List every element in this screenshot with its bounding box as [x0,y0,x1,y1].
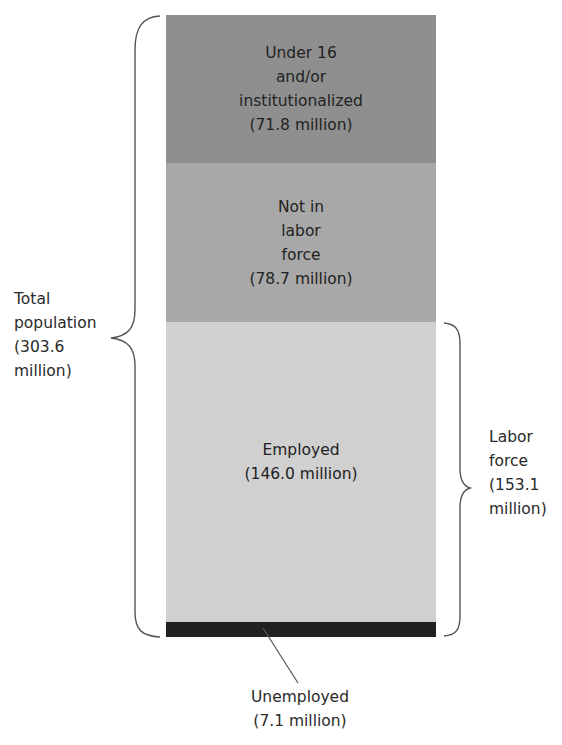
total-population-label: Total population (303.6 million) [14,287,96,383]
total-population-brace-icon [111,16,160,637]
labor-force-label: Labor force (153.1 million) [489,425,547,521]
unemployed-label: Unemployed (7.1 million) [230,685,370,733]
unemployed-leader-line [263,628,298,683]
labor-force-brace-icon [444,323,470,636]
